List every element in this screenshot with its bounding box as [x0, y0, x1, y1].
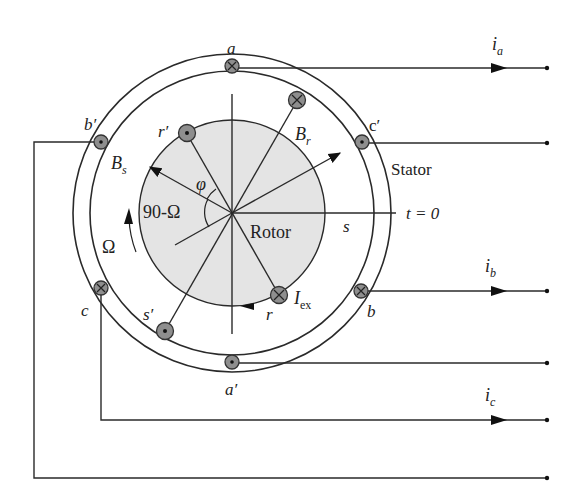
label-phi: φ [196, 174, 206, 194]
terminal-a-prime [545, 361, 549, 365]
conductor-c [94, 281, 108, 295]
conductor-a [225, 59, 239, 73]
label-c-prime: c′ [369, 116, 380, 135]
label-r-prime: r′ [158, 122, 169, 141]
label-I-ex: Iex [293, 288, 311, 312]
rotor-conductor-r-prime [179, 125, 196, 142]
label-current-c: ic [485, 385, 496, 409]
current-a-arrow-icon [491, 63, 507, 73]
dot-icon [360, 140, 364, 144]
dot-icon [230, 360, 234, 364]
label-B-r: Br [295, 124, 311, 148]
dot-icon [185, 131, 189, 135]
conductor-b [354, 284, 368, 298]
label-c: c [81, 301, 89, 320]
conductor-a-prime [225, 355, 239, 369]
terminal-c-prime [545, 141, 549, 145]
label-omega: Ω [102, 237, 115, 257]
current-b-arrow-icon [491, 286, 507, 296]
label-s-prime: s′ [143, 305, 154, 324]
current-c-arrow-icon [491, 415, 507, 425]
label-a-prime: a′ [225, 380, 238, 399]
label-b-prime: b′ [84, 115, 97, 134]
label-s: s [343, 217, 350, 236]
wire-c [101, 293, 547, 420]
label-angle-90-omega: 90-Ω [143, 202, 180, 222]
synchronous-machine-diagram: a a′ b b′ c c′ r′ r s′ s Bs Br φ 90-Ω Ω … [0, 0, 579, 501]
label-current-b: ib [485, 256, 496, 280]
label-b: b [367, 302, 376, 321]
terminal-c [545, 418, 549, 422]
label-t0: t = 0 [406, 204, 440, 223]
rotor-conductor-s [289, 92, 306, 109]
label-a: a [227, 39, 236, 58]
rotor-conductor-s-prime [157, 323, 174, 340]
rotor-conductor-r [271, 287, 288, 304]
label-current-a: ia [492, 34, 503, 58]
dot-icon [163, 329, 167, 333]
conductor-b-prime [94, 135, 108, 149]
dot-icon [99, 140, 103, 144]
conductor-c-prime [355, 135, 369, 149]
omega-arrow-icon [124, 208, 133, 224]
terminal-b-prime [545, 476, 549, 480]
label-stator: Stator [391, 160, 432, 179]
terminal-a [545, 66, 549, 70]
label-rotor: Rotor [250, 222, 291, 242]
label-r: r [266, 305, 273, 324]
label-B-s: Bs [111, 153, 127, 177]
terminal-b [545, 289, 549, 293]
